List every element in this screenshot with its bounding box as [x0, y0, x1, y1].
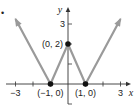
data-point: [83, 81, 89, 87]
problem-bullet: •: [1, 8, 4, 18]
left-arrow-icon: [15, 18, 22, 27]
chart: •−333xy(−1, 0)(0, 2)(1, 0): [0, 0, 135, 108]
x-tick-label: −3: [10, 88, 20, 98]
point-label: (0, 2): [42, 39, 63, 49]
right-arrow-icon: [114, 18, 121, 27]
x-tick-label: 3: [118, 88, 123, 98]
axes: [6, 7, 131, 104]
x-axis-label: x: [128, 87, 134, 98]
y-axis-label: y: [57, 4, 63, 15]
y-tick-label: 3: [60, 19, 65, 29]
point-label: (−1, 0): [37, 88, 63, 98]
y-axis-arrow-icon: [66, 7, 71, 12]
data-point: [48, 81, 54, 87]
point-label: (1, 0): [75, 88, 96, 98]
x-axis-arrow-icon: [126, 82, 131, 87]
data-point: [65, 41, 71, 47]
